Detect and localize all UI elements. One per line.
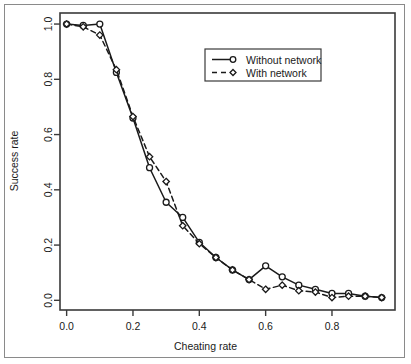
y-tick-label: 0.6 (42, 127, 54, 142)
y-axis-ticks: 0.00.20.40.60.81.0 (42, 17, 60, 308)
data-point-diamond (279, 282, 285, 288)
plot-canvas: 0.00.20.40.60.8 0.00.20.40.60.81.0 Witho… (0, 0, 411, 364)
legend-label: Without network (246, 54, 322, 66)
data-point-diamond (262, 286, 268, 292)
data-point-circle (163, 199, 169, 205)
y-tick-label: 0.8 (42, 72, 54, 87)
data-point-circle (97, 21, 103, 27)
x-axis-title: Cheating rate (0, 340, 411, 352)
x-tick-label: 0.4 (192, 320, 207, 332)
y-tick-label: 1.0 (42, 17, 54, 32)
x-axis-ticks: 0.00.20.40.60.8 (59, 310, 339, 332)
chart-figure: 0.00.20.40.60.8 0.00.20.40.60.81.0 Witho… (0, 0, 411, 364)
x-tick-label: 0.0 (59, 320, 74, 332)
y-tick-label: 0.0 (42, 293, 54, 308)
x-tick-label: 0.2 (126, 320, 141, 332)
chart-legend: Without networkWith network (205, 49, 322, 81)
data-point-diamond (163, 178, 169, 184)
legend-label: With network (246, 67, 307, 79)
y-tick-label: 0.2 (42, 238, 54, 253)
data-point-circle (279, 274, 285, 280)
x-tick-label: 0.6 (258, 320, 273, 332)
data-point-circle (230, 57, 236, 63)
data-point-diamond (296, 287, 302, 293)
y-axis-title: Success rate (8, 101, 20, 221)
x-tick-label: 0.8 (325, 320, 340, 332)
data-point-circle (263, 263, 269, 269)
data-point-circle (147, 165, 153, 171)
y-tick-label: 0.4 (42, 182, 54, 197)
